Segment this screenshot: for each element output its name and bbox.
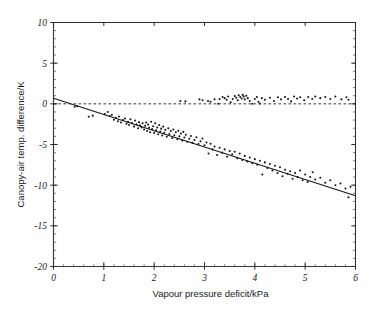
data-point — [128, 124, 130, 126]
data-point — [269, 163, 271, 165]
data-point — [292, 178, 294, 180]
data-point — [287, 98, 289, 100]
data-point — [138, 121, 140, 123]
data-point — [299, 170, 301, 172]
data-point — [122, 119, 124, 121]
data-point — [314, 95, 316, 97]
data-point — [247, 97, 249, 99]
data-point — [276, 172, 278, 174]
data-point — [231, 153, 233, 155]
data-point — [143, 128, 145, 130]
data-point — [144, 125, 146, 127]
data-point — [226, 156, 228, 158]
data-point — [203, 144, 205, 146]
data-point — [167, 127, 169, 129]
data-point — [190, 135, 192, 137]
data-point — [251, 162, 253, 164]
data-point — [161, 135, 163, 137]
data-point — [136, 123, 138, 125]
data-point — [145, 122, 147, 124]
data-point — [227, 95, 229, 97]
data-point — [149, 131, 151, 133]
data-point — [210, 143, 212, 145]
x-tick-label: 2 — [152, 273, 157, 283]
data-point — [241, 98, 243, 100]
data-point — [254, 158, 256, 160]
y-tick-label: -5 — [39, 140, 47, 150]
data-point — [241, 159, 243, 161]
data-point — [195, 136, 197, 138]
data-point — [173, 134, 175, 136]
data-point — [185, 134, 187, 136]
data-point — [162, 126, 164, 128]
data-point — [76, 105, 78, 107]
data-point — [129, 118, 131, 120]
data-point — [117, 120, 119, 122]
data-point — [249, 156, 251, 158]
data-point — [179, 100, 181, 102]
data-point — [259, 102, 261, 104]
data-point — [163, 132, 165, 134]
y-tick-label: 0 — [42, 99, 47, 109]
data-point — [168, 133, 170, 135]
data-point — [125, 123, 127, 125]
data-point — [266, 167, 268, 169]
data-point — [184, 100, 186, 102]
data-point — [188, 138, 190, 140]
data-point — [319, 97, 321, 99]
data-point — [319, 177, 321, 179]
x-tick-label: 0 — [51, 273, 56, 283]
data-point — [178, 135, 180, 137]
data-point — [339, 183, 341, 185]
data-point — [207, 100, 209, 102]
data-point — [254, 98, 256, 100]
data-point — [296, 98, 298, 100]
data-point — [277, 96, 279, 98]
data-point — [217, 103, 219, 105]
data-point — [170, 130, 172, 132]
scatter-plot: -20-15-10-505100123456Vapour pressure de… — [0, 0, 379, 314]
data-point — [239, 96, 241, 98]
data-point — [293, 95, 295, 97]
data-point — [256, 164, 258, 166]
data-point — [142, 122, 144, 124]
data-point — [307, 181, 309, 183]
data-point — [164, 129, 166, 131]
data-point — [151, 128, 153, 130]
data-point — [246, 161, 248, 163]
data-point — [239, 152, 241, 154]
data-point — [307, 96, 309, 98]
data-point — [219, 147, 221, 149]
data-point — [222, 96, 224, 98]
data-point — [111, 114, 113, 116]
data-point — [158, 124, 160, 126]
data-point — [191, 142, 193, 144]
data-point — [186, 141, 188, 143]
data-point — [297, 176, 299, 178]
data-point — [160, 128, 162, 130]
data-point — [201, 99, 203, 101]
data-point — [235, 97, 237, 99]
data-point — [257, 101, 259, 103]
data-point — [309, 176, 311, 178]
data-point — [171, 137, 173, 139]
y-tick-label: -20 — [34, 262, 47, 272]
data-point — [214, 98, 216, 100]
data-point — [273, 100, 275, 102]
data-point — [104, 113, 106, 115]
data-point — [155, 129, 157, 131]
data-point — [221, 152, 223, 154]
data-point — [279, 166, 281, 168]
data-point — [88, 116, 90, 118]
data-point — [303, 99, 305, 101]
x-tick-label: 3 — [201, 273, 207, 283]
data-point — [287, 173, 289, 175]
data-point — [324, 96, 326, 98]
data-point — [157, 133, 159, 135]
data-point — [238, 94, 240, 96]
data-point — [234, 95, 236, 97]
data-point — [134, 119, 136, 121]
data-point — [329, 179, 331, 181]
data-point — [118, 115, 120, 117]
data-point — [177, 130, 179, 132]
